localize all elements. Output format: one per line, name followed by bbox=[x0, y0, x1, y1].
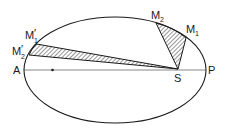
kepler-diagram: M ′ 1 M ′ 2 A M 2 M 1 S P bbox=[0, 0, 226, 134]
svg-text:M: M bbox=[151, 9, 160, 21]
svg-text:M: M bbox=[186, 23, 195, 35]
label-M2-prime: M ′ 2 bbox=[12, 43, 25, 60]
label-P: P bbox=[208, 64, 215, 76]
empty-focus-dot bbox=[51, 69, 54, 72]
label-A: A bbox=[13, 64, 21, 76]
svg-text:1: 1 bbox=[34, 37, 38, 44]
perihelion-sector bbox=[156, 23, 186, 69]
svg-text:M: M bbox=[25, 29, 34, 41]
svg-text:2: 2 bbox=[21, 53, 25, 60]
svg-text:M: M bbox=[12, 45, 21, 57]
label-M2: M 2 bbox=[151, 9, 164, 23]
label-M1-prime: M ′ 1 bbox=[25, 27, 38, 44]
svg-text:1: 1 bbox=[195, 30, 199, 37]
label-S: S bbox=[174, 72, 181, 84]
svg-text:2: 2 bbox=[160, 16, 164, 23]
aphelion-sector bbox=[29, 44, 178, 69]
label-M1: M 1 bbox=[186, 23, 199, 37]
